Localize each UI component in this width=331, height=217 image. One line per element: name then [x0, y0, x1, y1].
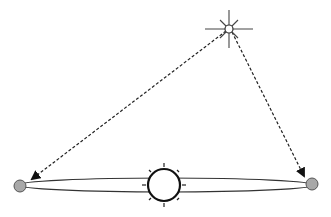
star-icon	[205, 10, 253, 48]
sight-line-left	[32, 31, 226, 179]
planet-left-icon	[14, 180, 26, 192]
sun-icon	[142, 163, 186, 207]
sight-line-right	[232, 32, 304, 176]
planet-right-icon	[306, 178, 318, 190]
parallax-diagram	[0, 0, 331, 217]
